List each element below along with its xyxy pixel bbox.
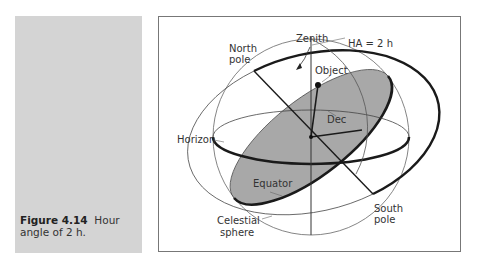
center-point bbox=[309, 135, 313, 139]
horizon-label: Horizon bbox=[177, 134, 215, 145]
hour-angle-label: HA = 2 h bbox=[348, 38, 393, 49]
celestial-sphere-label: Celestial bbox=[217, 215, 260, 226]
south-pole-label-2: pole bbox=[374, 214, 395, 225]
celestial-sphere-label-2: sphere bbox=[220, 227, 254, 238]
equator-label: Equator bbox=[253, 178, 293, 189]
south-pole-label: South bbox=[374, 203, 403, 214]
object-point bbox=[315, 82, 321, 88]
north-pole-label: North bbox=[229, 43, 257, 54]
object-label: Object bbox=[315, 65, 348, 76]
zenith-label: Zenith bbox=[296, 33, 328, 44]
north-pole-label-2: pole bbox=[229, 54, 250, 65]
celestial-sphere-diagram: North pole Zenith HA = 2 h Object Dec Ho… bbox=[0, 0, 480, 269]
sphere-leader bbox=[262, 216, 272, 219]
dec-label: Dec bbox=[327, 114, 346, 125]
